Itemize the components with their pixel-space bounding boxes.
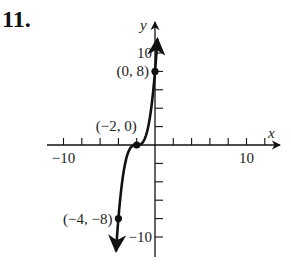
data-point	[115, 215, 122, 222]
point-label: (−2, 0)	[96, 118, 137, 135]
x-axis-label: x	[267, 125, 275, 141]
data-point	[133, 141, 140, 148]
y-axis-label: y	[138, 17, 147, 33]
cubic-function-graph: xy −101010−10 (0, 8)(−2, 0)(−4, −8)	[0, 0, 291, 274]
y-tick-label: −10	[129, 229, 152, 245]
x-tick-label: −10	[52, 150, 75, 166]
point-label: (−4, −8)	[63, 211, 112, 228]
point-label: (0, 8)	[117, 63, 150, 80]
data-point	[151, 68, 158, 75]
y-tick-label: 10	[137, 45, 152, 61]
x-tick-label: 10	[239, 150, 254, 166]
